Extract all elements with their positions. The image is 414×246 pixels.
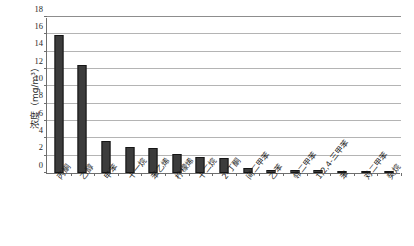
- bar-slot: [47, 17, 71, 173]
- y-tick-label: 16: [35, 22, 44, 31]
- bar-slot: [141, 17, 165, 173]
- bar-slot: [94, 17, 118, 173]
- bar: [54, 35, 63, 173]
- bar-slot: [118, 17, 142, 173]
- y-tick-label: 6: [39, 108, 43, 117]
- bar-slot: [189, 17, 213, 173]
- y-tick-label: 12: [35, 56, 44, 65]
- y-tick-label: 8: [39, 91, 43, 100]
- page-header-remnant: [0, 0, 414, 14]
- bar-slot: [354, 17, 378, 173]
- bar-chart: 浓度（mg/m³） 024681012141618 丙酮乙醇甲苯十一烷苯乙烯柠檬…: [0, 14, 414, 246]
- y-tick-label: 18: [35, 4, 44, 13]
- y-tick-label: 10: [35, 74, 44, 83]
- x-axis-category-labels: 丙酮乙醇甲苯十一烷苯乙烯柠檬烯十二烷2-丁酮间二甲苯乙苯邻二甲苯1,2,4-三甲…: [46, 176, 400, 242]
- plot-area: 024681012141618: [46, 18, 400, 174]
- y-tick-label: 2: [39, 143, 43, 152]
- bar: [78, 65, 87, 173]
- chart-page: 浓度（mg/m³） 024681012141618 丙酮乙醇甲苯十一烷苯乙烯柠檬…: [0, 0, 414, 246]
- bar-slot: [236, 17, 260, 173]
- bar-series: [47, 17, 401, 173]
- bar-slot: [212, 17, 236, 173]
- x-tick-mark: [401, 173, 402, 176]
- bar-slot: [165, 17, 189, 173]
- y-tick-label: 4: [39, 126, 43, 135]
- y-tick-label: 0: [39, 160, 43, 169]
- y-tick-label: 14: [35, 39, 44, 48]
- bar-slot: [71, 17, 95, 173]
- bar-slot: [283, 17, 307, 173]
